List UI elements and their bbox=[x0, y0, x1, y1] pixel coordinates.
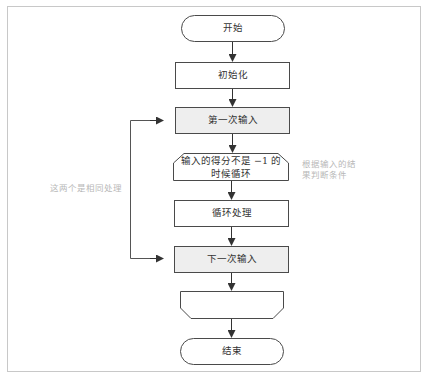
loop-end-label bbox=[180, 291, 284, 318]
same-processing-note: 这两个是相同处理 bbox=[50, 183, 122, 194]
condition-note-line1: 根据输入的结 bbox=[302, 159, 356, 170]
loop-start-label-line2: 时候循环 bbox=[211, 168, 251, 181]
condition-note: 根据输入的结 果判断条件 bbox=[302, 159, 356, 181]
first-input-label: 第一次输入 bbox=[175, 107, 290, 134]
init-label: 初始化 bbox=[175, 62, 290, 89]
same-processing-bracket bbox=[131, 121, 163, 259]
start-label: 开始 bbox=[181, 15, 285, 42]
loop-start-label: 输入的得分不是 −1 的 时候循环 bbox=[173, 154, 289, 181]
loop-body-label: 循环处理 bbox=[174, 200, 289, 227]
next-input-label: 下一次输入 bbox=[174, 246, 289, 273]
end-label: 结束 bbox=[180, 338, 284, 365]
condition-note-line2: 果判断条件 bbox=[302, 170, 356, 181]
loop-start-label-line1: 输入的得分不是 −1 的 bbox=[181, 155, 281, 168]
